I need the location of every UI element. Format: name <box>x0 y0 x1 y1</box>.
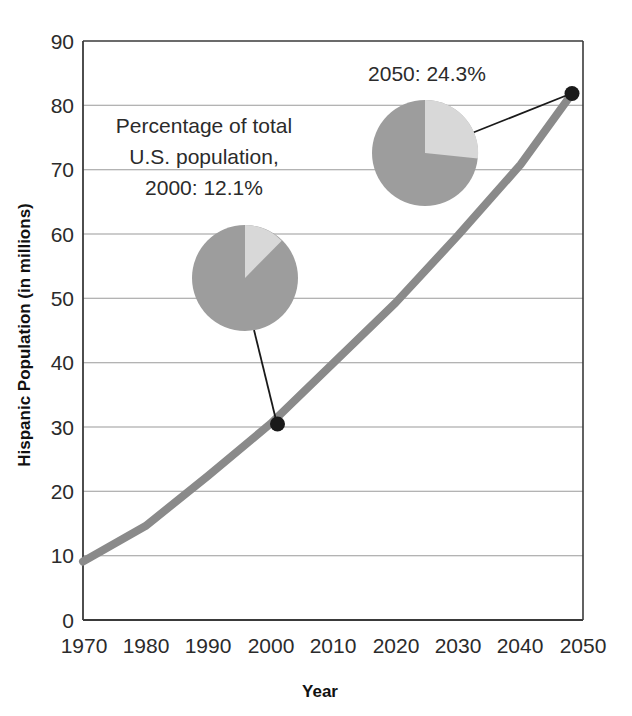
x-tick-1970: 1970 <box>61 634 108 657</box>
caption-2050-line-1: 2050: 24.3% <box>368 62 486 85</box>
pie-2050 <box>372 100 478 206</box>
pie-2000 <box>192 225 298 331</box>
line-chart: 90 80 70 60 50 40 30 20 10 0 1970 1980 1… <box>0 0 632 716</box>
x-tick-2040: 2040 <box>497 634 544 657</box>
caption-2000-line-1: Percentage of total <box>116 114 292 137</box>
marker-2050 <box>565 86 580 101</box>
x-tick-labels: 1970 1980 1990 2000 2010 2020 2030 2040 … <box>61 634 607 657</box>
y-tick-20: 20 <box>51 480 74 503</box>
y-tick-80: 80 <box>51 94 74 117</box>
caption-2000-line-3: 2000: 12.1% <box>145 176 263 199</box>
y-tick-60: 60 <box>51 223 74 246</box>
x-tick-1980: 1980 <box>123 634 170 657</box>
x-tick-2030: 2030 <box>435 634 482 657</box>
y-tick-10: 10 <box>51 544 74 567</box>
y-tick-50: 50 <box>51 287 74 310</box>
y-axis-title: Hispanic Population (in millions) <box>15 203 34 467</box>
x-tick-2050: 2050 <box>560 634 607 657</box>
y-tick-labels: 90 80 70 60 50 40 30 20 10 0 <box>51 30 74 632</box>
x-tick-2010: 2010 <box>310 634 357 657</box>
chart-figure: 90 80 70 60 50 40 30 20 10 0 1970 1980 1… <box>0 0 632 716</box>
caption-2000-line-2: U.S. population, <box>129 145 278 168</box>
x-tick-2020: 2020 <box>373 634 420 657</box>
caption-2050: 2050: 24.3% <box>368 62 486 85</box>
x-axis-title: Year <box>302 682 338 701</box>
x-tick-2000: 2000 <box>248 634 295 657</box>
marker-2000 <box>270 417 285 432</box>
y-tick-40: 40 <box>51 351 74 374</box>
y-tick-0: 0 <box>62 609 74 632</box>
y-tick-30: 30 <box>51 416 74 439</box>
x-tick-1990: 1990 <box>185 634 232 657</box>
y-tick-70: 70 <box>51 158 74 181</box>
y-tick-90: 90 <box>51 30 74 53</box>
